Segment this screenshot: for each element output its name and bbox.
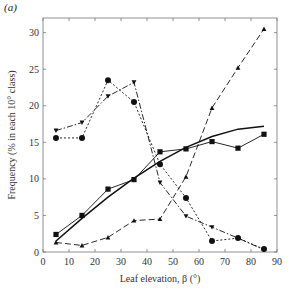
square-marker <box>105 187 110 192</box>
circle-marker <box>209 238 215 244</box>
square-marker <box>157 149 162 154</box>
x-axis-label: Leaf elevation, β (°) <box>120 273 201 285</box>
x-tick-label: 20 <box>90 256 100 267</box>
triangle-down-marker <box>132 80 137 84</box>
y-tick-label: 30 <box>29 27 39 38</box>
triangle-up-marker <box>210 106 215 110</box>
x-tick-label: 40 <box>142 256 152 267</box>
circle-marker <box>105 77 111 83</box>
x-tick-label: 90 <box>272 256 282 267</box>
x-tick-label: 60 <box>194 256 204 267</box>
triangle-up-marker <box>184 174 189 178</box>
y-tick-label: 5 <box>34 210 39 221</box>
y-tick-label: 25 <box>29 64 39 75</box>
y-tick-label: 10 <box>29 173 39 184</box>
square-marker <box>53 232 58 237</box>
square-marker <box>235 146 240 151</box>
x-tick-label: 0 <box>41 256 46 267</box>
x-tick-label: 70 <box>220 256 230 267</box>
y-tick-label: 0 <box>34 247 39 258</box>
triangle-up-marker <box>106 235 111 239</box>
series-upright-triangles <box>54 27 267 248</box>
triangle-down-marker <box>184 214 189 218</box>
square-marker <box>261 132 266 137</box>
x-tick-label: 10 <box>64 256 74 267</box>
triangle-down-marker <box>210 225 215 229</box>
y-axis-label: Frequency (% in each 10° class) <box>6 70 18 199</box>
line-chart: 0102030405060708090051015202530Leaf elev… <box>0 0 298 293</box>
x-tick-label: 50 <box>168 256 178 267</box>
circle-marker <box>79 135 85 141</box>
triangle-down-marker <box>54 129 59 133</box>
circle-marker <box>53 135 59 141</box>
series-circles <box>53 77 267 252</box>
circle-marker <box>131 99 137 105</box>
circle-marker <box>183 195 189 201</box>
y-tick-label: 15 <box>29 137 39 148</box>
triangle-up-marker <box>262 27 267 31</box>
x-tick-label: 30 <box>116 256 126 267</box>
x-tick-label: 80 <box>246 256 256 267</box>
square-marker <box>209 139 214 144</box>
y-tick-label: 20 <box>29 100 39 111</box>
